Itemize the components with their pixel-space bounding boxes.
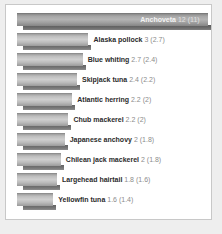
bar-row[interactable]: Skipjack tuna 2.4 (2.2) [6,73,211,93]
bar-value: 3 [144,36,148,43]
bar-row[interactable]: Chub mackerel 2.2 (2) [6,113,211,133]
bar-label: Alaska pollock 3 (2.7) [93,34,164,46]
bar-species-name: Anchoveta [140,16,176,23]
bar-value: 2 [134,136,138,143]
bar-row[interactable]: Japanese anchovy 2 (1.8) [6,133,211,153]
bar-previous-value: (2) [137,116,146,123]
bar: Alaska pollock 3 (2.7) [17,33,88,50]
bar-label: Yellowfin tuna 1.6 (1.4) [58,194,133,206]
bar-value: 1.8 [124,176,134,183]
bar: Atlantic herring 2.2 (2) [17,93,72,110]
bar-previous-value: (2.7) [150,36,164,43]
bar-previous-value: (2.2) [141,76,155,83]
bar-species-name: Japanese anchovy [70,136,132,143]
bar-previous-value: (11) [188,16,200,23]
bar: Chilean jack mackerel 2 (1.8) [17,153,61,170]
bar-list: Anchoveta 12 (11)Alaska pollock 3 (2.7)B… [6,13,211,213]
bar-row[interactable]: Atlantic herring 2.2 (2) [6,93,211,113]
bar-row[interactable]: Yellowfin tuna 1.6 (1.4) [6,193,211,213]
bar: Blue whiting 2.7 (2.4) [17,53,83,70]
bar: Chub mackerel 2.2 (2) [17,113,68,130]
bar-label: Chub mackerel 2.2 (2) [73,114,145,126]
bar-species-name: Yellowfin tuna [58,196,105,203]
bar: Japanese anchovy 2 (1.8) [17,133,65,150]
bar-previous-value: (1.8) [140,136,154,143]
bar-fill: Blue whiting 2.7 (2.4) [17,53,83,66]
bar-value: 12 [178,16,186,23]
bar-value: 2 [141,156,145,163]
bar-value: 2.2 [126,116,136,123]
bar-previous-value: (2.4) [143,56,157,63]
bar-fill: Alaska pollock 3 (2.7) [17,33,88,46]
bar-value: 2.2 [131,96,141,103]
bar-previous-value: (1.6) [136,176,150,183]
bar-label: Largehead hairtail 1.8 (1.6) [62,174,150,186]
bar-chart-card: Anchoveta 12 (11)Alaska pollock 3 (2.7)B… [5,4,212,220]
bar: Yellowfin tuna 1.6 (1.4) [17,193,53,210]
bar-value: 2.7 [131,56,141,63]
bar-label: Anchoveta 12 (11) [140,14,199,26]
bar-row[interactable]: Anchoveta 12 (11) [6,13,211,33]
bar-value: 2.4 [129,76,139,83]
bar-fill: Chilean jack mackerel 2 (1.8) [17,153,61,166]
bar-fill: Chub mackerel 2.2 (2) [17,113,68,126]
bar-row[interactable]: Largehead hairtail 1.8 (1.6) [6,173,211,193]
bar-fill: Skipjack tuna 2.4 (2.2) [17,73,77,86]
bar-previous-value: (1.4) [119,196,133,203]
bar-fill: Japanese anchovy 2 (1.8) [17,133,65,146]
bar: Largehead hairtail 1.8 (1.6) [17,173,57,190]
bar-value: 1.6 [107,196,117,203]
bar: Skipjack tuna 2.4 (2.2) [17,73,77,90]
bar-label: Skipjack tuna 2.4 (2.2) [82,74,155,86]
bar-row[interactable]: Alaska pollock 3 (2.7) [6,33,211,53]
bar-species-name: Atlantic herring [77,96,129,103]
bar-row[interactable]: Chilean jack mackerel 2 (1.8) [6,153,211,173]
bar-fill: Largehead hairtail 1.8 (1.6) [17,173,57,186]
bar-species-name: Largehead hairtail [62,176,122,183]
bar-species-name: Alaska pollock [93,36,142,43]
bar-fill: Yellowfin tuna 1.6 (1.4) [17,193,53,206]
bar-label: Japanese anchovy 2 (1.8) [70,134,154,146]
bar-fill: Anchoveta 12 (11) [17,13,208,26]
bar-species-name: Chilean jack mackerel [66,156,139,163]
bar-fill: Atlantic herring 2.2 (2) [17,93,72,106]
bar-species-name: Chub mackerel [73,116,123,123]
bar-row[interactable]: Blue whiting 2.7 (2.4) [6,53,211,73]
bar-previous-value: (2) [143,96,152,103]
bar-species-name: Blue whiting [88,56,130,63]
bar-previous-value: (1.8) [147,156,161,163]
bar-label: Chilean jack mackerel 2 (1.8) [66,154,161,166]
bar-species-name: Skipjack tuna [82,76,127,83]
bar-label: Blue whiting 2.7 (2.4) [88,54,158,66]
bar-label: Atlantic herring 2.2 (2) [77,94,151,106]
bar: Anchoveta 12 (11) [17,13,208,30]
